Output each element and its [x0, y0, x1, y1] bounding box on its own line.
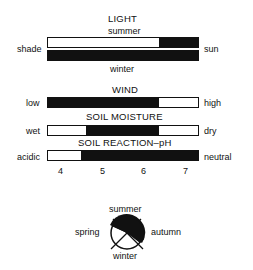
soil-ph-fill — [81, 151, 198, 160]
soil-ph-title: SOIL REACTION–pH — [78, 138, 172, 148]
light-sun-label: sun — [204, 44, 219, 54]
soil-moisture-title: SOIL MOISTURE — [86, 112, 163, 122]
soil-ph-neutral-label: neutral — [204, 152, 232, 162]
wind-low-label: low — [26, 98, 40, 108]
light-winter-fill — [48, 51, 198, 60]
light-title: LIGHT — [108, 14, 137, 24]
season-autumn-label: autumn — [151, 227, 181, 237]
soil-ph-bar — [47, 150, 199, 161]
light-summer-bar — [47, 37, 199, 48]
soil-ph-acidic-label: acidic — [17, 152, 40, 162]
light-winter-label: winter — [110, 64, 134, 74]
wind-high-label: high — [204, 98, 221, 108]
soil-moisture-fill — [86, 126, 160, 135]
ph-tick-6: 6 — [141, 166, 146, 176]
light-winter-bar — [47, 50, 199, 61]
light-shade-label: shade — [17, 44, 42, 54]
light-summer-fill — [159, 38, 198, 47]
season-circle-icon — [107, 213, 147, 253]
wind-bar — [47, 97, 199, 108]
soil-moisture-bar — [47, 125, 199, 136]
ph-tick-5: 5 — [100, 166, 105, 176]
wind-title: WIND — [112, 85, 138, 95]
light-summer-label: summer — [108, 26, 141, 36]
ph-tick-4: 4 — [58, 166, 63, 176]
soil-moisture-wet-label: wet — [26, 126, 40, 136]
soil-moisture-dry-label: dry — [204, 126, 217, 136]
season-spring-label: spring — [75, 227, 100, 237]
wind-fill — [48, 98, 159, 107]
ph-tick-7: 7 — [183, 166, 188, 176]
